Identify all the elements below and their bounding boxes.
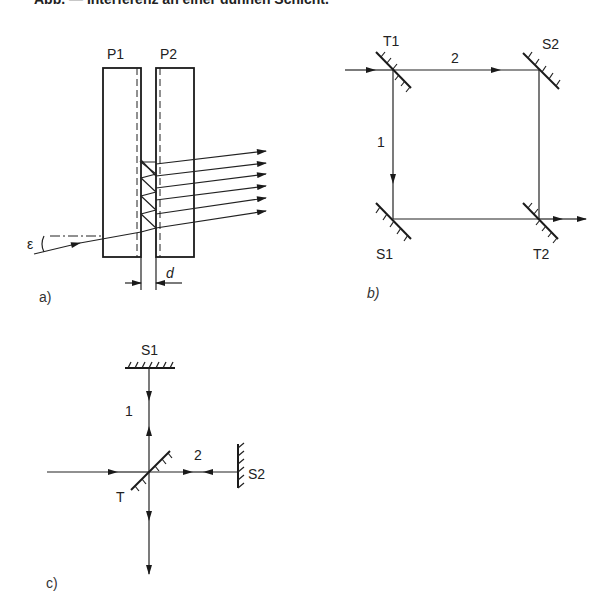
s2-label: S2 (542, 36, 559, 52)
s2-label: S2 (248, 466, 265, 482)
multiple-reflection-zigzag (141, 162, 156, 232)
plate-2-label: P2 (160, 46, 177, 62)
incident-ray (34, 243, 80, 254)
path-1-label: 1 (125, 403, 133, 419)
t1-label: T1 (383, 33, 400, 49)
plate-2 (156, 68, 194, 257)
panel-a-fabry-perot: P1 P2 ε d a) (27, 46, 266, 305)
s1-label: S1 (141, 342, 158, 358)
panel-a-label: a) (39, 289, 51, 305)
plate-1 (103, 68, 141, 257)
t2-label: T2 (533, 246, 550, 262)
beamsplitter-t2 (523, 203, 558, 243)
path-2-label: 2 (451, 50, 459, 66)
angle-epsilon-label: ε (27, 236, 33, 252)
panel-c-label: c) (46, 575, 58, 591)
panel-c-michelson: S1 1 2 S2 (46, 342, 265, 591)
path-2-label: 2 (194, 447, 202, 463)
beamsplitter-t (131, 451, 172, 491)
panel-b-label: b) (367, 285, 379, 301)
mirror-s1 (125, 362, 175, 368)
t-label: T (116, 489, 125, 505)
path-1-label: 1 (377, 134, 385, 150)
angle-arc (42, 236, 44, 252)
gap-d-label: d (166, 265, 175, 281)
s1-label: S1 (376, 246, 393, 262)
mirror-s2 (238, 443, 244, 488)
plate-1-label: P1 (107, 46, 124, 62)
panel-b-mach-zehnder: T1 S2 S1 (345, 33, 586, 301)
